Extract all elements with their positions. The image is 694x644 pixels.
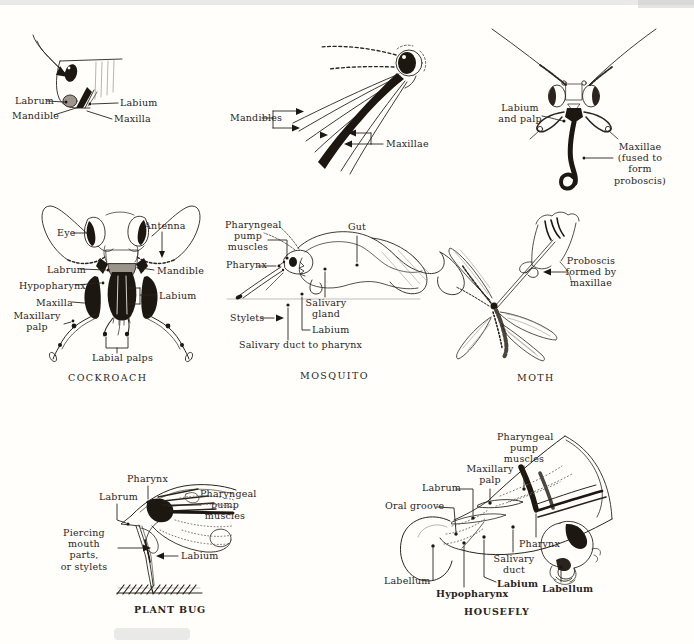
caption-mosquito: MOSQUITO [300,370,369,381]
caption-housefly: HOUSEFLY [464,606,530,617]
chewing-insect-illustration [33,35,122,119]
label-housefly-salivary-duct: Salivary duct [493,553,535,575]
label-cockroach-labium: Labium [159,290,196,301]
label-housefly-labellum-left: Labellum [384,575,430,586]
label-chewing-labium: Labium [120,97,157,108]
label-mothhead-labium-palp: Labium and palp [498,102,542,124]
label-mosquito-gut: Gut [348,221,366,232]
label-housefly-labrum: Labrum [422,482,461,493]
caption-cockroach: COCKROACH [68,372,147,383]
label-chewing-maxilla: Maxilla [114,113,151,124]
label-mosqhead-mandibles: Mandibles [230,112,282,123]
label-plantbug-labrum: Labrum [99,491,138,502]
label-mothhead-maxillae-fused: Maxillae (fused to form proboscis) [605,141,675,186]
label-chewing-labrum: Labrum [15,95,54,106]
insect-mouthparts-figure: Labrum Mandible Labium Maxilla Mandibles… [0,0,694,644]
label-cockroach-antenna: Antenna [144,220,186,231]
label-housefly-oral-groove: Oral groove [385,500,444,511]
label-plantbug-labium: Labium [181,550,218,561]
label-mosqhead-maxillae: Maxillae [386,138,429,149]
label-plantbug-pharynx: Pharynx [127,473,168,484]
label-cockroach-labial-palps: Labial palps [92,352,153,363]
moth-illustration [449,212,579,361]
label-cockroach-eye: Eye [57,227,76,238]
label-mosquito-salivary-duct: Salivary duct to pharynx [239,339,362,350]
caption-plant-bug: PLANT BUG [134,604,206,615]
caption-moth: MOTH [517,372,555,383]
label-plantbug-piercing: Piercing mouth parts, or stylets [52,527,116,572]
label-mosquito-pump-muscles: Pharyngeal pump muscles [225,219,271,253]
label-mosquito-salivary-gland: Salivary gland [305,297,347,319]
label-mosquito-stylets: Stylets [230,312,264,323]
label-moth-proboscis: Proboscis formed by maxillae [565,255,617,289]
label-plantbug-pump-muscles: Pharyngeal pump muscles [200,488,250,522]
label-housefly-pump-muscles: Pharyngeal pump muscles [497,431,551,465]
label-cockroach-maxilla: Maxilla [36,297,73,308]
label-cockroach-maxillary-palp: Maxillary palp [12,310,62,332]
label-housefly-maxillary-palp: Maxillary palp [466,463,514,485]
label-mosquito-labium: Labium [312,324,349,335]
label-housefly-hypopharynx: Hypopharynx [436,588,508,599]
mosquito-head-illustration [262,45,426,174]
label-cockroach-hypopharynx: Hypopharynx [19,280,86,291]
label-housefly-labellum-right: Labellum [542,583,593,594]
label-chewing-mandible: Mandible [12,110,59,121]
label-mosquito-pharynx: Pharynx [226,259,267,270]
label-cockroach-labrum: Labrum [47,264,86,275]
label-housefly-pharynx: Pharynx [519,538,560,549]
label-cockroach-mandible: Mandible [157,265,204,276]
label-housefly-labium: Labium [497,578,538,589]
